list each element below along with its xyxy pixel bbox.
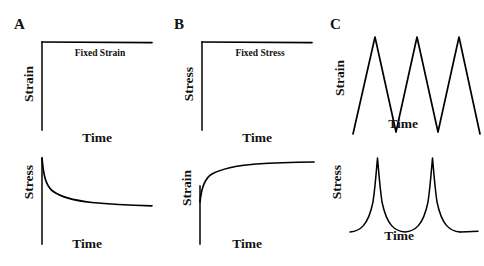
annotation-fixed-stress: Fixed Stress [220,48,300,58]
x-axis-label-time: Time [368,116,438,132]
plot-b-top: Stress Fixed Stress Time [160,26,320,136]
plot-c-bottom: Stress Time [320,152,484,252]
plot-c-top: Strain Time [320,26,484,136]
curve-fixed-stress [202,42,312,43]
plot-a-bottom: Stress Time [0,152,160,252]
y-axis-label-strain: Strain [179,155,195,221]
rheology-figure: A Strain Fixed Strain Time Stress Time B [0,0,484,266]
panel-b: B Stress Fixed Stress Time Strain Time [160,0,320,266]
curve-stress-spikes [350,158,460,232]
curve-stress-spikes-tail [460,231,478,232]
panel-a: A Strain Fixed Strain Time Stress Time [0,0,160,266]
x-axis-label-time: Time [62,130,132,146]
x-axis-label-time: Time [212,236,282,252]
curve-fixed-strain [42,42,152,43]
y-axis-label-stress: Stress [21,149,37,215]
panel-c: C Strain Time Stress Time [320,0,484,266]
plot-a-top: Strain Fixed Strain Time [0,26,160,136]
x-axis-label-time: Time [52,236,122,252]
y-axis-label-stress: Stress [329,149,345,215]
plot-b-bottom: Strain Time [160,152,320,252]
annotation-fixed-strain: Fixed Strain [60,48,140,58]
y-axis-label-stress: Stress [181,51,197,117]
x-axis-label-time: Time [222,130,292,146]
y-axis-label-strain: Strain [21,51,37,117]
y-axis-label-strain: Strain [332,45,348,111]
x-axis-label-time: Time [364,228,434,244]
curve-creep [200,162,314,202]
curve-stress-relaxation [42,158,152,206]
